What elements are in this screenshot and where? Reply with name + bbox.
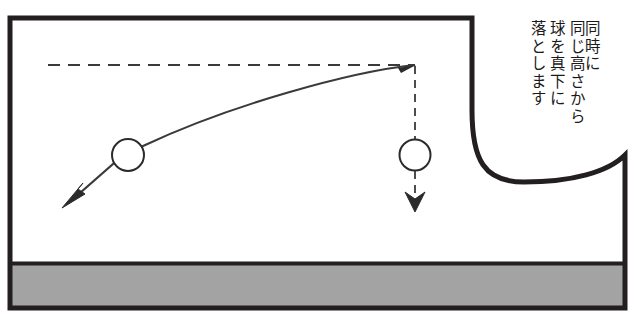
fall-arrow-down-head [405,192,425,212]
ball-right [400,140,431,171]
diagram-canvas [0,0,633,325]
figure-container: 同時に 同じ高さから 球を真下に 落とします [0,0,633,325]
velocity-arrow-left-head [62,183,85,208]
ball-left [112,139,144,171]
curved-trajectory [143,65,414,146]
ground-band [10,263,625,308]
